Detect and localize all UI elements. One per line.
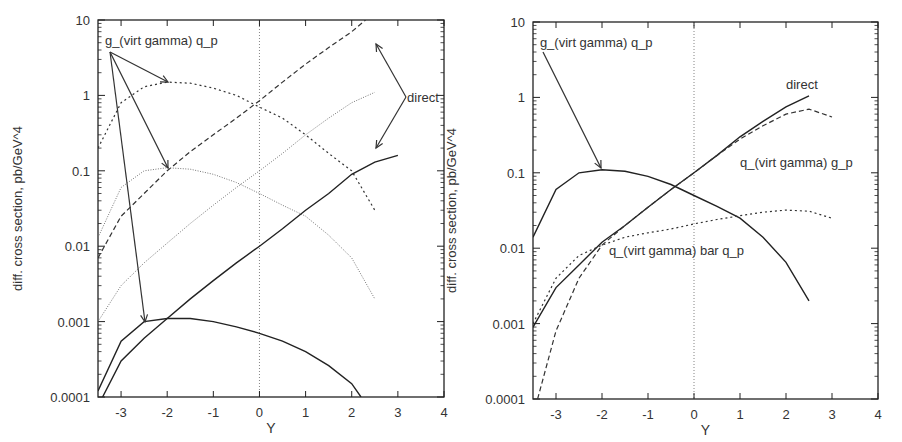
x-tick-label: -1 xyxy=(208,405,220,420)
y-tick-label: 0.1 xyxy=(72,164,90,179)
series-line-2 xyxy=(533,96,809,327)
y-tick-label: 0.001 xyxy=(57,315,90,330)
annotation-label: q_(virt gamma) g_p xyxy=(740,155,853,170)
x-axis-label: Y xyxy=(266,420,276,436)
x-tick-label: 1 xyxy=(736,407,743,422)
series-line-1 xyxy=(98,20,366,258)
figure: -3-2-1012340.00010.0010.010.1110Ydiff. c… xyxy=(0,0,902,442)
x-tick-label: 0 xyxy=(256,405,263,420)
annotation-label: direct xyxy=(786,77,818,92)
arrow-icon xyxy=(376,44,406,97)
plot-frame xyxy=(98,20,444,397)
x-tick-label: 3 xyxy=(394,405,401,420)
y-axis-label: diff. cross section, pb/GeV^4 xyxy=(444,128,459,293)
x-tick-label: 0 xyxy=(690,407,697,422)
y-tick-label: 1 xyxy=(83,88,90,103)
annotation-label: q_(virt gamma) bar q_p xyxy=(609,243,744,258)
x-tick-label: 4 xyxy=(874,407,881,422)
y-tick-label: 0.001 xyxy=(492,317,525,332)
series-line-5 xyxy=(103,155,398,397)
x-tick-label: -1 xyxy=(642,407,654,422)
y-tick-label: 0.0001 xyxy=(485,392,525,407)
x-tick-label: 2 xyxy=(348,405,355,420)
y-axis-label: diff. cross section, pb/GeV^4 xyxy=(10,126,25,291)
x-axis-label: Y xyxy=(701,422,711,438)
y-tick-label: 0.1 xyxy=(507,166,525,181)
arrow-icon xyxy=(110,52,145,322)
annotation-label: direct xyxy=(407,90,439,105)
y-tick-label: 1 xyxy=(518,90,525,105)
chart-panel-2: -3-2-1012340.00010.0010.010.1110Ydiff. c… xyxy=(444,15,882,438)
x-tick-label: 1 xyxy=(302,405,309,420)
series-line-4 xyxy=(98,92,375,321)
x-tick-label: 2 xyxy=(782,407,789,422)
x-tick-label: -3 xyxy=(115,405,127,420)
y-tick-label: 10 xyxy=(511,15,525,30)
series-line-6 xyxy=(98,319,361,398)
x-tick-label: -2 xyxy=(596,407,608,422)
chart-panel-1: -3-2-1012340.00010.0010.010.1110Ydiff. c… xyxy=(10,13,448,436)
y-tick-label: 0.01 xyxy=(65,239,90,254)
x-tick-label: -3 xyxy=(550,407,562,422)
x-tick-label: 3 xyxy=(828,407,835,422)
annotation-label: g_(virt gamma) q_p xyxy=(105,33,218,48)
x-tick-label: -2 xyxy=(161,405,173,420)
y-tick-label: 0.0001 xyxy=(50,390,90,405)
plot-frame xyxy=(533,22,878,399)
x-tick-label: 4 xyxy=(440,405,447,420)
arrow-icon xyxy=(376,97,406,148)
y-tick-label: 10 xyxy=(76,13,90,28)
series-line-2 xyxy=(98,82,375,210)
y-tick-label: 0.01 xyxy=(500,241,525,256)
annotation-label: g_(virt gamma) q_p xyxy=(540,35,653,50)
arrow-icon xyxy=(110,52,168,168)
arrow-icon xyxy=(110,52,168,82)
arrow-icon xyxy=(543,52,601,168)
